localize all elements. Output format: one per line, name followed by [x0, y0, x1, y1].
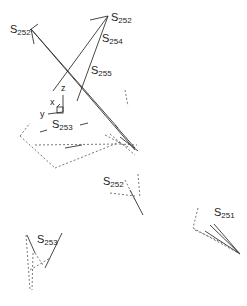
label-s252-mid: S252: [103, 176, 124, 189]
label-s253-bottom: S253: [37, 234, 58, 247]
solid-lines: [27, 16, 240, 268]
axis-label-x: x: [50, 98, 55, 107]
label-s253-mid: S253: [52, 119, 73, 132]
axis-label-z: z: [61, 84, 66, 93]
label-s252-top-left: S252: [10, 24, 31, 37]
label-s255: S255: [91, 65, 112, 78]
axis-label-y: y: [40, 110, 45, 119]
label-s252-top-right: S252: [111, 12, 132, 25]
label-s251: S251: [214, 207, 235, 220]
diagram-canvas: [0, 0, 247, 306]
label-s254: S254: [102, 33, 123, 46]
